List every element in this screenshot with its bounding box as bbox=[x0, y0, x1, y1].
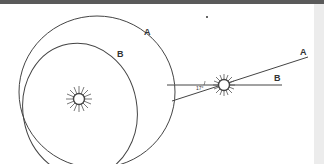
sun-icon bbox=[66, 86, 92, 112]
line-a bbox=[172, 57, 308, 101]
angle-arc bbox=[204, 81, 205, 85]
angle-label: 17° bbox=[196, 85, 204, 91]
orbit-b-label: B bbox=[117, 49, 124, 59]
dot-mark bbox=[206, 16, 208, 18]
line-a-label: A bbox=[300, 47, 307, 57]
orbit-a bbox=[19, 16, 175, 164]
orbit-diagram: A B A B 17° bbox=[0, 0, 324, 164]
line-b-label: B bbox=[274, 73, 281, 83]
orbit-a-label: A bbox=[144, 27, 151, 37]
sun-icon bbox=[213, 74, 235, 96]
